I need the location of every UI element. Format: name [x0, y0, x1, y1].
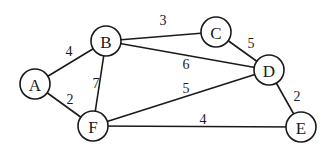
- edge-weight-a-f: 2: [67, 92, 74, 107]
- node-f: F: [78, 111, 108, 141]
- node-label: D: [263, 62, 275, 81]
- edge-weight-b-d: 6: [183, 57, 190, 72]
- edge-weight-c-d: 5: [248, 36, 255, 51]
- node-c: C: [201, 17, 231, 47]
- node-label: C: [210, 24, 221, 43]
- edge-weight-b-c: 3: [160, 13, 167, 28]
- edge-weight-b-f: 7: [93, 76, 100, 91]
- node-label: B: [100, 33, 111, 52]
- node-b: B: [91, 26, 121, 56]
- node-label: A: [29, 76, 42, 95]
- edge-f-e: [93, 126, 301, 127]
- node-label: E: [296, 119, 306, 138]
- edge-weight-f-d: 5: [183, 81, 190, 96]
- node-a: A: [20, 69, 50, 99]
- edge-weight-d-e: 2: [294, 89, 301, 104]
- weighted-graph-diagram: 423675524 ABCDEF: [0, 0, 332, 150]
- node-d: D: [254, 55, 284, 85]
- edge-f-d: [93, 70, 269, 126]
- edge-b-c: [106, 32, 216, 41]
- node-label: F: [88, 118, 97, 137]
- edge-weight-f-e: 4: [200, 112, 207, 127]
- edge-weight-a-b: 4: [66, 44, 73, 59]
- node-e: E: [286, 112, 316, 142]
